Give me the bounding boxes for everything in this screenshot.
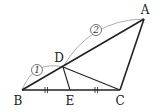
vertex-label-b: B	[14, 94, 23, 108]
segment-ca	[120, 19, 144, 90]
ratio-mark-1: 1	[32, 65, 43, 76]
segment-de	[63, 67, 70, 90]
segment-dc	[63, 67, 120, 90]
vertex-label-c: C	[115, 94, 124, 108]
ratio-label-2: 2	[92, 25, 99, 35]
vertex-label-a: A	[140, 3, 150, 17]
triangle-diagram: 1 2 A B C D E	[0, 0, 162, 112]
diagram-canvas: 1 2 A B C D E	[0, 0, 162, 112]
segment-ab	[22, 19, 144, 90]
ratio-label-1: 1	[34, 65, 40, 75]
ratio-mark-2: 2	[91, 25, 102, 36]
vertex-label-e: E	[66, 94, 75, 108]
vertex-label-d: D	[54, 51, 64, 65]
